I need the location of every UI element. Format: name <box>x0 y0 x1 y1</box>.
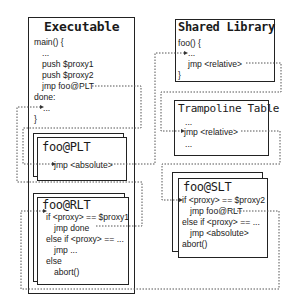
arrowhead-slt <box>179 198 183 202</box>
arrowhead-rlt <box>43 209 47 213</box>
arrow-main-to-plt <box>23 86 141 164</box>
arrow-lib-to-tramp <box>161 63 281 131</box>
arrowhead-done <box>40 105 44 109</box>
arrow-plt-to-lib <box>111 53 184 164</box>
connector-arrows <box>0 0 297 304</box>
arrow-slt-to-rlt <box>21 211 279 289</box>
arrowhead-lib <box>184 51 188 55</box>
arrow-rlt-to-done <box>17 107 142 226</box>
arrow-tramp-to-slt <box>162 131 280 200</box>
arrowhead-tramp <box>181 129 185 133</box>
arrowhead-plt <box>52 162 56 166</box>
